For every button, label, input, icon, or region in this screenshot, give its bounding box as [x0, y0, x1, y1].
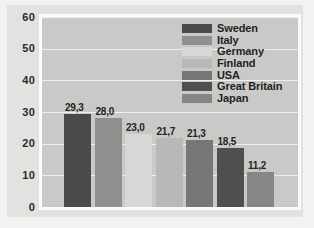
legend-swatch [182, 82, 212, 91]
legend-item: Sweden [182, 23, 300, 35]
legend-label: Sweden [217, 23, 258, 34]
legend-swatch [182, 24, 212, 33]
legend-label: Great Britain [217, 81, 282, 92]
legend-item: Finland [182, 58, 300, 70]
bar-value-label: 23,0 [126, 122, 145, 133]
bar-chart: 0102030405060 29,328,023,021,721,318,511… [0, 0, 314, 228]
y-axis-tick-label: 60 [22, 12, 35, 23]
legend-swatch [182, 94, 212, 103]
y-axis-tick-label: 40 [22, 75, 35, 86]
y-axis: 0102030405060 [9, 5, 37, 217]
y-axis-tick-label: 30 [22, 107, 35, 118]
y-axis-tick-label: 10 [22, 170, 35, 181]
legend-label: Japan [217, 93, 248, 104]
bar [125, 134, 152, 207]
bar-value-label: 18,5 [218, 136, 237, 147]
legend-item: USA [182, 69, 300, 81]
legend-label: Finland [217, 58, 255, 69]
bar [217, 148, 244, 207]
legend-label: Italy [217, 35, 239, 46]
legend-swatch [182, 71, 212, 80]
bar [95, 118, 122, 207]
legend-swatch [182, 59, 212, 68]
legend-item: Italy [182, 35, 300, 47]
bar-value-label: 11,2 [248, 160, 266, 171]
legend-swatch [182, 36, 212, 45]
y-axis-tick-label: 20 [22, 138, 35, 149]
y-axis-tick-label: 50 [22, 43, 35, 54]
bar-value-label: 28,0 [96, 106, 115, 117]
legend-item: Japan [182, 93, 300, 105]
bar [64, 114, 91, 207]
bar-value-label: 21,3 [187, 128, 206, 139]
bar-value-label: 29,3 [65, 102, 84, 113]
bar [247, 172, 274, 207]
bar [186, 140, 213, 207]
bar-value-label: 21,7 [157, 126, 176, 137]
chart-legend: SwedenItalyGermanyFinlandUSAGreat Britai… [182, 23, 300, 104]
legend-label: USA [217, 70, 240, 81]
bar [156, 138, 183, 207]
legend-label: Germany [217, 46, 264, 57]
legend-swatch [182, 47, 212, 56]
legend-item: Great Britain [182, 81, 300, 93]
y-axis-tick-label: 0 [29, 202, 35, 213]
legend-item: Germany [182, 46, 300, 58]
